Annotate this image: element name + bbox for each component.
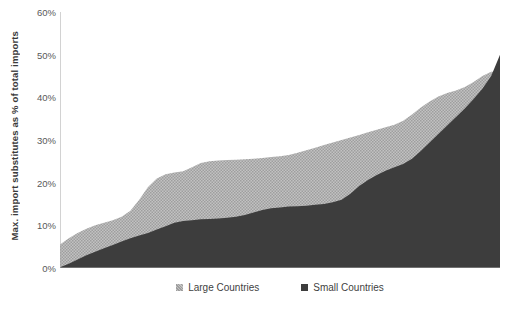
legend-swatch-large-countries (176, 284, 183, 291)
legend-label-small-countries: Small Countries (313, 282, 384, 293)
y-axis-tick-50pct: 50% (22, 49, 56, 60)
y-axis-tick-30pct: 30% (22, 135, 56, 146)
import-substitutes-area-chart: Max. import substitutes as % of total im… (0, 0, 505, 311)
legend-item-small-countries[interactable]: Small Countries (301, 282, 384, 293)
y-axis-tick-0pct: 0% (22, 263, 56, 274)
legend-item-large-countries[interactable]: Large Countries (176, 282, 259, 293)
y-axis-tick-labels: 0%10%20%30%40%50%60% (18, 0, 56, 311)
y-axis-tick-60pct: 60% (22, 7, 56, 18)
legend-swatch-small-countries (301, 284, 308, 291)
y-axis-tick-20pct: 20% (22, 177, 56, 188)
plot-area (60, 12, 500, 268)
y-axis-tick-10pct: 10% (22, 220, 56, 231)
chart-legend: Large Countries Small Countries (60, 282, 500, 293)
y-axis-tick-40pct: 40% (22, 92, 56, 103)
legend-label-large-countries: Large Countries (188, 282, 259, 293)
